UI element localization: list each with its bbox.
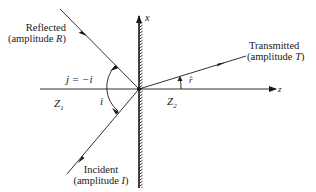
- x-axis-label: x: [145, 12, 150, 23]
- transmitted-ray-arrow: [217, 63, 225, 67]
- incident-title: Incident: [66, 164, 136, 175]
- refraction-angle-label: r̂: [189, 75, 193, 86]
- reflected-ray-arrow: [79, 31, 87, 36]
- medium-z2-label: Z2: [167, 96, 177, 112]
- z-axis-label: z: [278, 84, 282, 95]
- reflected-amplitude: (amplitude R): [2, 33, 66, 44]
- transmitted-amplitude: (amplitude T): [247, 51, 304, 62]
- origin-point: [137, 87, 141, 91]
- reflected-label: Reflected (amplitude R): [2, 22, 66, 44]
- medium-z1-label: Z1: [54, 98, 64, 114]
- transmitted-title: Transmitted: [247, 40, 304, 51]
- reflected-title: Reflected: [2, 22, 66, 33]
- incident-label: Incident (amplitude I): [66, 164, 136, 186]
- angle-arc-incidence-reflection: [107, 66, 118, 111]
- incident-amplitude: (amplitude I): [66, 175, 136, 186]
- transmitted-label: Transmitted (amplitude T): [247, 40, 304, 62]
- incidence-angle-label: i: [100, 96, 103, 107]
- reflection-angle-label: j = −i: [66, 74, 92, 85]
